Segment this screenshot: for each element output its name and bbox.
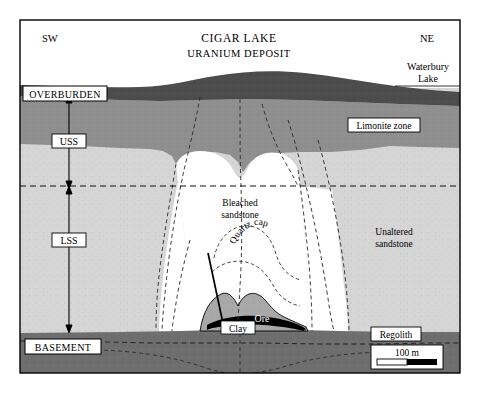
ore-label: Ore xyxy=(255,313,271,324)
unaltered-sandstone-label-line-1: Unaltered xyxy=(375,227,413,237)
basement-label: BASEMENT xyxy=(25,339,101,354)
regolith-label: Regolith xyxy=(371,327,421,341)
waterbury-lake-label-line-2: Lake xyxy=(418,73,439,84)
lss-label: LSS xyxy=(52,233,86,247)
overburden-label-text: OVERBURDEN xyxy=(29,89,100,100)
figure-title-line-1: CIGAR LAKE xyxy=(201,32,276,44)
orientation-label-ne: NE xyxy=(420,33,434,44)
scale-bar-label: 100 m xyxy=(395,348,420,358)
geological-cross-section-svg: CIGAR LAKE URANIUM DEPOSIT SW NE Waterbu… xyxy=(0,0,479,395)
basement-label-text: BASEMENT xyxy=(35,342,91,353)
clay-label: Clay xyxy=(221,321,255,334)
limonite-zone-label: Limonite zone xyxy=(348,118,420,132)
limonite-zone-label-text: Limonite zone xyxy=(356,121,411,131)
waterbury-lake-label-line-1: Waterbury xyxy=(407,61,449,72)
figure-title-line-2: URANIUM DEPOSIT xyxy=(187,48,291,59)
unaltered-sandstone-label-line-2: sandstone xyxy=(375,239,412,249)
bleached-sandstone-label-line-1: Bleached xyxy=(222,198,258,208)
lss-label-text: LSS xyxy=(60,235,77,246)
regolith-label-text: Regolith xyxy=(380,330,413,340)
orientation-label-sw: SW xyxy=(42,33,58,44)
scale-bar-segment-black xyxy=(407,359,437,365)
bleached-sandstone-label-line-2: sandstone xyxy=(221,210,258,220)
uss-label: USS xyxy=(52,134,86,148)
scale-bar-segment-white xyxy=(377,359,407,365)
scale-bar: 100 m xyxy=(371,345,443,369)
clay-label-text: Clay xyxy=(229,324,247,334)
uss-label-text: USS xyxy=(60,136,78,147)
cigar-lake-cross-section-figure: CIGAR LAKE URANIUM DEPOSIT SW NE Waterbu… xyxy=(0,0,479,395)
overburden-label: OVERBURDEN xyxy=(23,86,107,101)
